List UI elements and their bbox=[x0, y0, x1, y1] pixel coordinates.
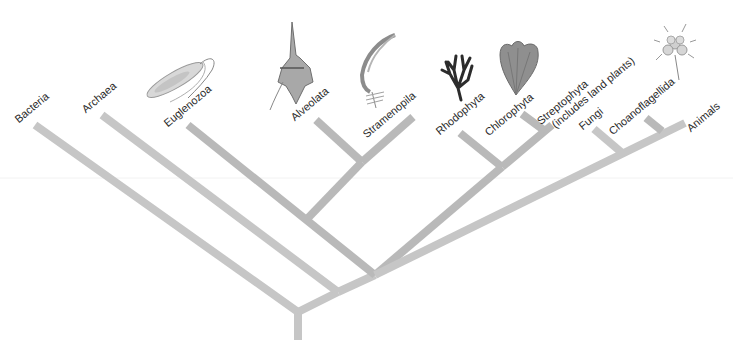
branch-bacteria bbox=[35, 125, 298, 312]
green-alga-illustration bbox=[500, 42, 538, 96]
branch-nodeA-nodeB bbox=[338, 275, 375, 292]
branch-choanoflagellida bbox=[646, 118, 662, 131]
brown-alga-illustration bbox=[362, 35, 395, 108]
branch-alveolata bbox=[316, 120, 362, 162]
branch-rhodophyta bbox=[460, 133, 502, 167]
red-alga-illustration bbox=[442, 56, 472, 100]
branch-root-nodeA bbox=[298, 292, 338, 312]
branch-sar-stem bbox=[308, 162, 362, 218]
branch-archaea bbox=[102, 115, 338, 292]
choanoflagellate-illustration bbox=[654, 24, 696, 80]
